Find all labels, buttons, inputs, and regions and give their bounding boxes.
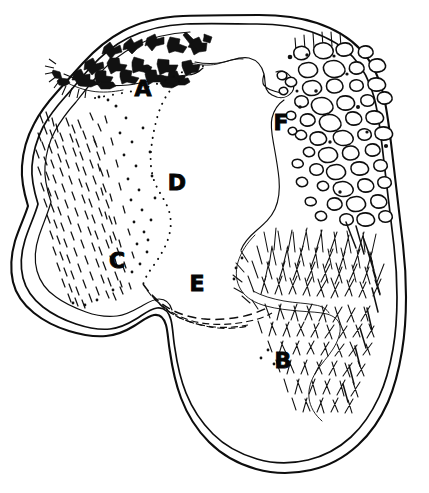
region-b-boundary [236, 235, 340, 421]
pebble-cluster [277, 43, 392, 226]
bristle-strokes [233, 222, 384, 413]
debris-flakes [45, 32, 212, 98]
zone-label-f: F [273, 110, 288, 135]
region-e-band-line-1 [143, 284, 269, 319]
region-c-dash-fill [36, 96, 156, 308]
zone-label-e: E [189, 271, 204, 296]
tick-mark [313, 33, 314, 48]
region-f-cobble-fill [190, 32, 393, 250]
zone-label-a: A [134, 76, 151, 101]
figure-root: A F D C E B [0, 0, 429, 493]
plan-diagram: A F D C E B [0, 0, 429, 493]
region-a-debris-fill [45, 32, 212, 98]
region-f-boundary [195, 57, 294, 250]
tick-mark [331, 32, 332, 46]
zone-label-c: C [109, 248, 125, 273]
region-e-dashed-band [143, 284, 272, 328]
zone-label-b: B [275, 348, 292, 373]
zone-label-d: D [168, 170, 186, 195]
region-b-bristle-fill [233, 222, 384, 421]
